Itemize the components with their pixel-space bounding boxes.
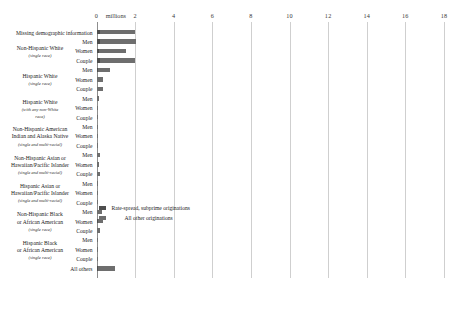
group-label-line: Non-Hispanic White xyxy=(2,45,78,52)
bar-segment-other xyxy=(97,172,100,176)
row-category-text: Couple xyxy=(76,199,92,207)
bar-segment-other xyxy=(97,125,98,129)
bar-segment-other xyxy=(97,162,99,166)
legend-swatch xyxy=(99,216,106,220)
bar-row: Missing demographic information xyxy=(0,28,454,37)
bar-segment-other xyxy=(100,58,136,62)
row-category-text: Men xyxy=(82,236,92,244)
group-label-line: Hispanic White xyxy=(2,73,78,80)
row-category-text: Couple xyxy=(76,114,92,122)
group-label-line: Hispanic Asian or xyxy=(2,183,78,190)
row-category-text: Couple xyxy=(76,227,92,235)
bar-segment-other xyxy=(98,68,110,72)
group-label: Hispanic Blackor African American(single… xyxy=(2,240,78,262)
group-label-line: Hawaiian/Pacific Islander xyxy=(2,162,78,169)
group-label-line: Hispanic White xyxy=(2,99,78,106)
x-tick-label-8: 8 xyxy=(249,12,252,19)
group-label: Non-Hispanic Asian orHawaiian/Pacific Is… xyxy=(2,155,78,177)
group-label-note: race) xyxy=(2,113,78,120)
x-axis-unit-label: millions xyxy=(106,12,126,19)
bar-segment-other xyxy=(97,191,98,195)
row-category-text: Missing demographic information xyxy=(16,29,92,37)
bar-segment-other xyxy=(97,200,98,204)
legend-label: Rate-spread, subprime originations xyxy=(112,204,190,213)
group-label-note: (single and multi-racial) xyxy=(2,169,78,176)
group-label-line: Non-Hispanic American xyxy=(2,126,78,133)
group-label-line: Indian and Alaska Native xyxy=(2,133,78,140)
bar-segment-other xyxy=(97,143,98,147)
bar-row: All others xyxy=(0,264,454,273)
bar-segment-other xyxy=(97,247,98,251)
row-category-text: Men xyxy=(82,38,92,46)
bar-segment-other xyxy=(97,181,98,185)
row-category-text: Men xyxy=(82,151,92,159)
group-label-note: (single and multi-racial) xyxy=(2,141,78,148)
bar-segment-other xyxy=(97,153,99,157)
bar-segment-other xyxy=(97,134,98,138)
x-tick-label-2: 2 xyxy=(133,12,136,19)
bar-segment-other xyxy=(97,238,98,242)
x-tick-label-6: 6 xyxy=(211,12,214,19)
bar-segment-other xyxy=(100,39,136,43)
group-label: Non-Hispanic White(single race) xyxy=(2,45,78,59)
row-category-text: Couple xyxy=(76,85,92,93)
row-category-text: Couple xyxy=(76,170,92,178)
group-label-note: (single and multi-racial) xyxy=(2,197,78,204)
group-label-note: (single race) xyxy=(2,52,78,59)
row-category-text: Men xyxy=(82,66,92,74)
group-label-line: Hawaiian/Pacific Islander xyxy=(2,190,78,197)
bar-segment-other xyxy=(97,77,103,81)
plot-area: Missing demographic informationMenWomenC… xyxy=(0,22,454,314)
bar-segment-other xyxy=(98,266,114,270)
group-label: Hispanic White(with any non-Whiterace) xyxy=(2,99,78,121)
group-label-line: Non-Hispanic Black xyxy=(2,211,78,218)
bar-segment-other xyxy=(97,257,98,261)
x-tick-label-4: 4 xyxy=(172,12,175,19)
group-label: Non-Hispanic AmericanIndian and Alaska N… xyxy=(2,126,78,148)
row-category-text: Men xyxy=(82,123,92,131)
x-tick-label-10: 10 xyxy=(286,12,293,19)
row-category-text: Men xyxy=(82,180,92,188)
bar-segment-other xyxy=(97,96,99,100)
group-label: Hispanic White(single race) xyxy=(2,73,78,87)
bar-segment-other xyxy=(97,106,98,110)
group-label-note: (single race) xyxy=(2,254,78,261)
row-category-text: All others xyxy=(70,265,92,273)
row-category-text: Couple xyxy=(76,57,92,65)
group-label-line: or African American xyxy=(2,219,78,226)
x-tick-label-16: 16 xyxy=(402,12,409,19)
legend-swatch xyxy=(99,206,106,210)
bar-segment-other xyxy=(99,49,126,53)
row-category-text: Couple xyxy=(76,142,92,150)
group-label-note: (with any non-White xyxy=(2,106,78,113)
group-label-line: Hispanic Black xyxy=(2,240,78,247)
x-tick-label-0: 0 xyxy=(95,12,98,19)
row-category-text: Couple xyxy=(76,255,92,263)
legend-label: All other originations xyxy=(125,214,173,223)
bar-segment-other xyxy=(100,30,135,34)
bar-segment-other xyxy=(97,115,98,119)
group-label-line: Non-Hispanic Asian or xyxy=(2,155,78,162)
bar-chart: 024681012141618millions Missing demograp… xyxy=(0,0,454,325)
group-label-note: (single race) xyxy=(2,226,78,233)
x-tick-label-12: 12 xyxy=(325,12,332,19)
bar-segment-other xyxy=(97,228,100,232)
group-label-line: or African American xyxy=(2,247,78,254)
group-label-note: (single race) xyxy=(2,80,78,87)
group-label: Hispanic Asian orHawaiian/Pacific Island… xyxy=(2,183,78,205)
x-tick-label-14: 14 xyxy=(363,12,370,19)
bar-segment-other xyxy=(97,87,102,91)
group-label: Non-Hispanic Blackor African American(si… xyxy=(2,211,78,233)
x-tick-label-18: 18 xyxy=(441,12,448,19)
row-category-text: Men xyxy=(82,208,92,216)
row-category-text: Men xyxy=(82,95,92,103)
